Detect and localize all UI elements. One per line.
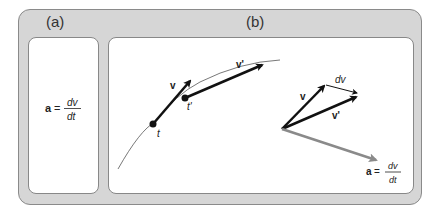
fraction-denominator: dt	[67, 111, 77, 122]
label-v: v	[170, 80, 176, 91]
vector-label-dv: dv	[335, 74, 347, 85]
equals-sign: =	[54, 102, 60, 114]
point-t	[150, 121, 157, 128]
panel-b-equation: a = dv dt	[366, 161, 401, 185]
vector-label-v: v	[300, 91, 306, 102]
fraction-numerator: dv	[67, 97, 79, 108]
diagram-canvas: a = dv dt v v' t t' v v' dv a = dv dt	[0, 0, 439, 219]
vector-dv	[326, 85, 357, 93]
label-v-prime: v'	[236, 59, 244, 70]
velocity-arrow-v-prime	[185, 65, 262, 98]
acceleration-arrow	[282, 129, 376, 160]
fraction-denominator-b: dt	[389, 175, 397, 185]
label-t-prime: t'	[187, 101, 193, 112]
fraction-numerator-b: dv	[388, 161, 398, 171]
vector-v-prime	[282, 97, 356, 129]
vector-label-v-prime: v'	[332, 110, 340, 121]
panel-a-equation: a = dv dt	[45, 97, 81, 122]
label-t: t	[157, 128, 161, 139]
accel-symbol-b: a	[366, 166, 372, 177]
equals-sign-b: =	[374, 166, 380, 177]
trajectory-curve	[118, 60, 280, 169]
accel-symbol: a	[45, 102, 52, 114]
